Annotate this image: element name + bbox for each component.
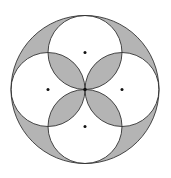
- dot-center: [83, 88, 87, 92]
- dot-top: [84, 51, 87, 54]
- dot-left: [47, 88, 50, 91]
- dot-right: [121, 88, 124, 91]
- circle-figure: [0, 0, 171, 178]
- dot-bottom: [84, 125, 87, 128]
